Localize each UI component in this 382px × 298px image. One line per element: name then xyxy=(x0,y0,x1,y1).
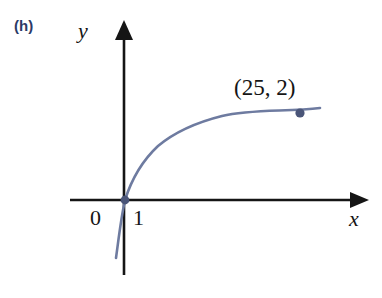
tick-label-zero: 0 xyxy=(90,205,101,231)
y-axis-label: y xyxy=(78,18,88,44)
figure-graph-panel: (h) y x 0 1 (25, 2) xyxy=(0,0,382,298)
point-marker-x-intercept xyxy=(121,196,130,205)
coordinate-plot xyxy=(0,0,382,298)
tick-label-one: 1 xyxy=(133,205,144,231)
y-axis-arrowhead xyxy=(115,20,133,40)
x-axis-label: x xyxy=(349,206,359,232)
point-annotation-label: (25, 2) xyxy=(234,75,295,101)
log-curve xyxy=(116,108,320,258)
point-marker-25-2 xyxy=(295,108,304,117)
